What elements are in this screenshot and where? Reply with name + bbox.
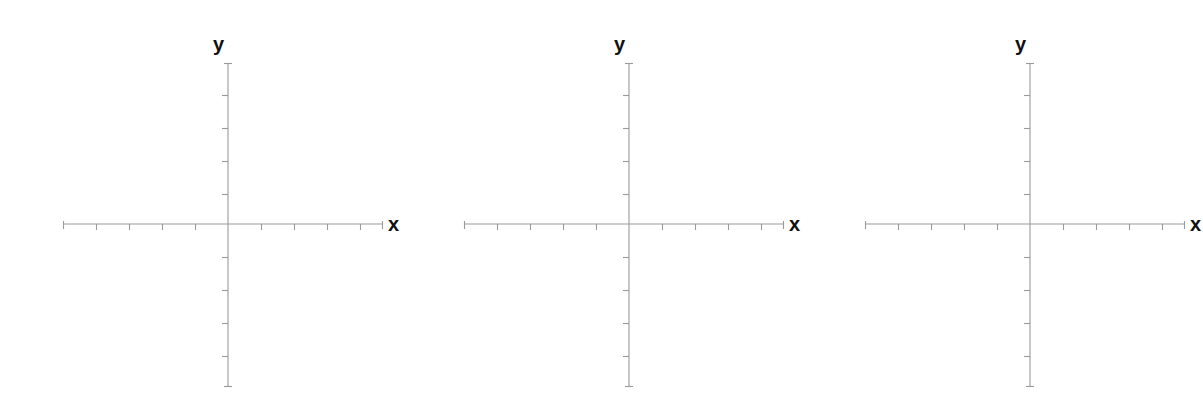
axes-graphic-3 bbox=[802, 0, 1203, 409]
coordinate-panel-3: y x bbox=[802, 0, 1203, 409]
axes-graphic-2 bbox=[401, 0, 802, 409]
y-axis-label: y bbox=[614, 34, 625, 54]
worksheet-canvas: y x bbox=[0, 0, 1203, 409]
axes-graphic-1 bbox=[0, 0, 401, 409]
axis-lines-3 bbox=[865, 63, 1185, 387]
y-axis-label: y bbox=[213, 34, 224, 54]
coordinate-panel-1: y x bbox=[0, 0, 401, 409]
x-axis-label: x bbox=[388, 214, 399, 234]
axis-lines-1 bbox=[63, 63, 383, 387]
axis-lines-2 bbox=[464, 63, 784, 387]
x-axis-label: x bbox=[1190, 214, 1201, 234]
y-axis-label: y bbox=[1015, 34, 1026, 54]
x-axis-label: x bbox=[789, 214, 800, 234]
coordinate-panel-2: y x bbox=[401, 0, 802, 409]
